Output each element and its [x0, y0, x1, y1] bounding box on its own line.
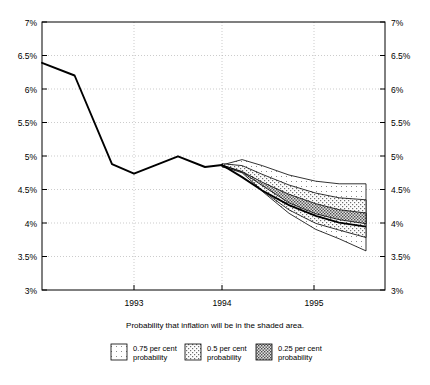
y-tick-label-left-2: 6% — [25, 85, 38, 95]
x-tick-label-1: 1994 — [213, 298, 232, 308]
legend-swatch-0.25-per-cent — [256, 344, 272, 360]
chart-canvas: 7% 6.5% 6% 5.5% 5% 4.5% 4% 3.5% 3% 7% 6.… — [0, 0, 430, 385]
y-tick-label-left-7: 3.5% — [18, 252, 38, 262]
x-tick-label-2: 1995 — [305, 298, 324, 308]
legend-label-2-line1: 0.25 per cent — [278, 344, 323, 353]
legend-label-0-line1: 0.75 per cent — [133, 344, 178, 353]
legend-swatch-0.5-per-cent — [185, 344, 201, 360]
y-tick-label-right-6: 4% — [391, 219, 404, 229]
y-tick-label-right-3: 5.5% — [391, 118, 411, 128]
legend-label-1-line1: 0.5 per cent — [207, 344, 248, 353]
y-tick-label-left-6: 4% — [25, 219, 38, 229]
legend-label-1-line2: probability — [207, 353, 241, 362]
y-tick-label-left-8: 3% — [25, 286, 38, 296]
y-tick-label-right-1: 6.5% — [391, 51, 411, 61]
fan-chart-figure: 7% 6.5% 6% 5.5% 5% 4.5% 4% 3.5% 3% 7% 6.… — [0, 0, 430, 385]
y-tick-label-left-5: 4.5% — [18, 185, 38, 195]
legend-label-0-line2: probability — [133, 353, 167, 362]
y-tick-label-left-0: 7% — [25, 18, 38, 28]
chart-caption: Probability that inflation will be in th… — [126, 321, 304, 330]
y-tick-label-right-8: 3% — [391, 286, 404, 296]
y-tick-label-right-5: 4.5% — [391, 185, 411, 195]
y-tick-label-right-4: 5% — [391, 152, 404, 162]
y-tick-label-left-3: 5.5% — [18, 118, 38, 128]
y-tick-label-right-7: 3.5% — [391, 252, 411, 262]
chart-legend: 0.75 per cent probability 0.5 per cent p… — [111, 344, 323, 362]
y-tick-label-left-4: 5% — [25, 152, 38, 162]
legend-swatch-0.75-per-cent — [111, 344, 127, 360]
x-tick-label-0: 1993 — [125, 298, 144, 308]
legend-label-2-line2: probability — [278, 353, 312, 362]
y-tick-label-right-2: 6% — [391, 85, 404, 95]
y-tick-label-left-1: 6.5% — [18, 51, 38, 61]
y-tick-label-right-0: 7% — [391, 18, 404, 28]
